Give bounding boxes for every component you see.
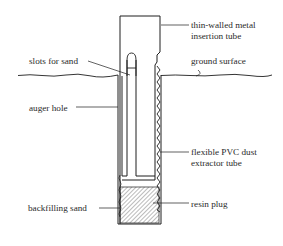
label-backfill: backfilling sand — [28, 203, 87, 213]
auger-hole-diagram: thin-walled metal insertion tube slots f… — [0, 0, 283, 246]
label-slots: slots for sand — [29, 56, 78, 66]
label-auger-hole: auger hole — [29, 103, 68, 113]
ground-surface — [18, 74, 272, 77]
label-pvc-2: extractor tube — [191, 158, 242, 168]
label-insertion-tube-2: insertion tube — [191, 31, 241, 41]
label-ground: ground surface — [191, 56, 246, 66]
leader-lines — [76, 25, 200, 208]
label-insertion-tube-1: thin-walled metal — [191, 20, 256, 30]
sand-slot — [127, 53, 136, 76]
resin-plug — [120, 187, 159, 223]
label-pvc-1: flexible PVC dust — [191, 147, 257, 157]
label-resin: resin plug — [191, 199, 228, 209]
